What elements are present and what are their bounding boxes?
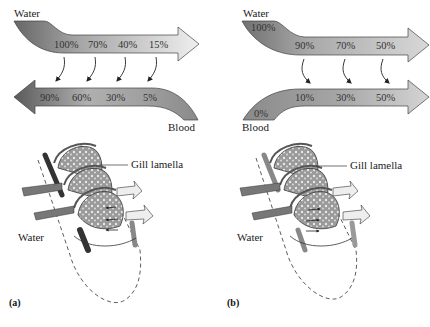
blood-pct-1: 90%: [40, 92, 60, 103]
blood-pct-2: 30%: [336, 92, 356, 103]
blood-label: Blood: [242, 121, 269, 133]
water-pct-4: 15%: [149, 39, 169, 50]
gill-lamella-label: Gill lamella: [131, 158, 183, 170]
blood-pct-1: 10%: [295, 92, 315, 103]
blood-pct-4: 5%: [143, 92, 157, 103]
water-pct-3: 50%: [376, 40, 396, 51]
water-pct-1: 90%: [295, 40, 315, 51]
gill-exchange-diagram: Water 100% 70% 40% 15% 90% 60% 30% 5% Bl…: [0, 0, 430, 327]
water-pct-2: 70%: [88, 39, 108, 50]
blood-start-pct: 0%: [254, 108, 268, 119]
gill-water-label: Water: [237, 231, 263, 243]
blood-label: Blood: [168, 121, 195, 133]
water-pct-3: 40%: [118, 39, 138, 50]
gill-water-label: Water: [18, 231, 44, 243]
blood-pct-2: 60%: [72, 92, 92, 103]
water-pct-2: 70%: [336, 40, 356, 51]
water-pct-1: 100%: [54, 39, 79, 50]
transfer-arrows: [56, 57, 157, 81]
panel-b: Water 100% 90% 70% 50% 10% 30% 50% 0% Bl…: [227, 7, 429, 309]
water-label: Water: [243, 7, 269, 19]
gill-lamella-label: Gill lamella: [350, 159, 402, 171]
blood-pct-3: 50%: [376, 92, 396, 103]
water-start-pct: 100%: [251, 22, 276, 33]
transfer-arrows: [302, 59, 389, 83]
panel-a-label: (a): [9, 297, 21, 309]
blood-pct-3: 30%: [106, 92, 126, 103]
water-label: Water: [14, 7, 40, 19]
panel-a: Water 100% 70% 40% 15% 90% 60% 30% 5% Bl…: [9, 7, 199, 309]
panel-b-label: (b): [227, 297, 239, 309]
